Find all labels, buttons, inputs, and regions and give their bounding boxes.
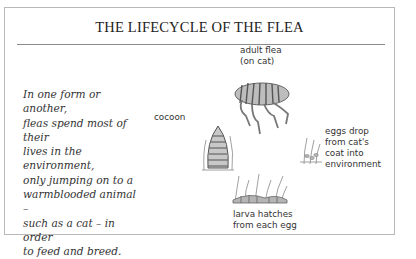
flea-larva-icon bbox=[229, 170, 289, 206]
cocoon-label-line1: cocoon bbox=[154, 112, 185, 123]
intro-line: warmblooded animal – bbox=[23, 187, 143, 216]
adult-flea-label: adult flea (on cat) bbox=[240, 45, 282, 67]
adult-flea-icon bbox=[228, 78, 298, 136]
title-divider bbox=[17, 44, 385, 45]
larva-label-line2: from each egg bbox=[233, 220, 297, 231]
diagram-title: THE LIFECYCLE OF THE FLEA bbox=[5, 19, 394, 36]
flea-cocoon-icon bbox=[200, 122, 236, 174]
flea-eggs-icon bbox=[298, 134, 324, 166]
eggs-label: eggs drop from cat's coat into environme… bbox=[325, 126, 381, 170]
intro-line: to feed and breed. bbox=[23, 244, 143, 258]
intro-line: In one form or another, bbox=[23, 87, 143, 116]
eggs-label-line1: eggs drop bbox=[325, 126, 381, 137]
larva-label-line1: larva hatches bbox=[233, 209, 297, 220]
cocoon-label: cocoon bbox=[154, 112, 185, 123]
intro-line: lives in the environment, bbox=[23, 144, 143, 173]
eggs-label-line2: from cat's bbox=[325, 137, 381, 148]
eggs-label-line4: environment bbox=[325, 159, 381, 170]
adult-label-line2: (on cat) bbox=[240, 56, 282, 67]
adult-label-line1: adult flea bbox=[240, 45, 282, 56]
intro-line: only jumping on to a bbox=[23, 173, 143, 187]
larva-label: larva hatches from each egg bbox=[233, 209, 297, 231]
eggs-label-line3: coat into bbox=[325, 148, 381, 159]
intro-line: fleas spend most of their bbox=[23, 116, 143, 145]
intro-line: such as a cat – in order bbox=[23, 216, 143, 245]
intro-text: In one form or another, fleas spend most… bbox=[23, 87, 143, 259]
